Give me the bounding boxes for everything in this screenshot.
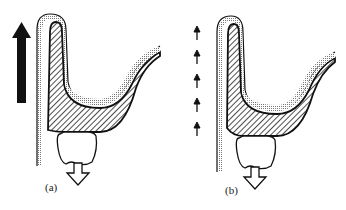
hollow-down-arrow-icon	[244, 167, 266, 189]
panel-label-b: (b)	[225, 184, 238, 196]
tooth-crown	[236, 136, 275, 169]
tooth-gingiva-diagram-b	[173, 0, 346, 210]
panel-a: (a)	[0, 0, 173, 210]
tooth-gingiva-diagram-a	[0, 0, 173, 210]
tooth-crown	[57, 132, 96, 165]
hollow-down-arrow-icon	[67, 163, 89, 185]
panel-b: (b)	[173, 0, 346, 210]
panel-label-a: (a)	[45, 181, 57, 193]
large-force-arrow-icon	[12, 22, 31, 103]
small-force-arrows-icon	[194, 26, 200, 136]
